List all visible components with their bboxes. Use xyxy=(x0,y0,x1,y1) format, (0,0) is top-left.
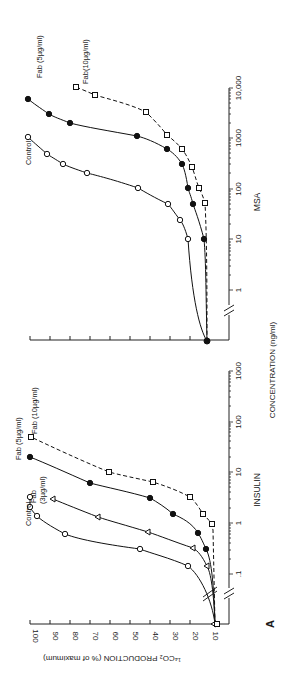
x-axis-title: CONCENTRATION (ng/ml) xyxy=(268,322,277,419)
insulin-tick-1000: 1000 xyxy=(234,362,243,380)
background xyxy=(0,0,296,698)
msa-tick-100: 100 xyxy=(234,182,243,196)
value-tick-90: 90 xyxy=(51,632,60,641)
value-tick-100: 100 xyxy=(31,629,40,643)
msa-panel-title: MSA xyxy=(252,192,262,211)
value-tick-60: 60 xyxy=(111,632,120,641)
msa-tick-1: 1 xyxy=(234,287,243,292)
msa-tick-10: 10 xyxy=(234,234,243,243)
insulin-tick-100: 100 xyxy=(234,415,243,429)
msa-tick-10000: 10,000 xyxy=(234,75,243,100)
msa-tick-1000: 1000 xyxy=(234,129,243,147)
value-tick-30: 30 xyxy=(171,632,180,641)
insulin-tick-0.1: .1 xyxy=(234,570,243,577)
value-tick-50: 50 xyxy=(131,632,140,641)
value-tick-20: 20 xyxy=(191,632,200,641)
insulin-label-fab3-line2: (3µg/ml) xyxy=(38,476,47,504)
value-tick-70: 70 xyxy=(91,632,100,641)
figure: 1 10 100 1000 10,000 MSA xyxy=(0,0,296,698)
y-axis-title: ¹⁴CO₂ PRODUCTION (% of maximum) xyxy=(43,654,181,663)
figure-label: A xyxy=(264,620,276,628)
insulin-label-control: Control xyxy=(24,502,33,527)
insulin-label-fab3-line1: Fab xyxy=(29,490,38,503)
insulin-panel-title: INSULIN xyxy=(252,473,262,507)
insulin-tick-1: 1 xyxy=(234,520,243,525)
msa-label-fab10: Fab(10µg/ml) xyxy=(81,39,90,84)
insulin-label-fab10: Fab (10µg/ml) xyxy=(30,387,39,434)
insulin-tick-10: 10 xyxy=(234,467,243,476)
value-tick-10: 10 xyxy=(211,632,220,641)
insulin-label-fab5: Fab (5µg/ml) xyxy=(14,417,23,460)
value-tick-80: 80 xyxy=(71,632,80,641)
value-tick-40: 40 xyxy=(151,632,160,641)
msa-label-control: Control xyxy=(24,141,33,166)
msa-label-fab5: Fab (5µg/ml) xyxy=(35,35,44,78)
